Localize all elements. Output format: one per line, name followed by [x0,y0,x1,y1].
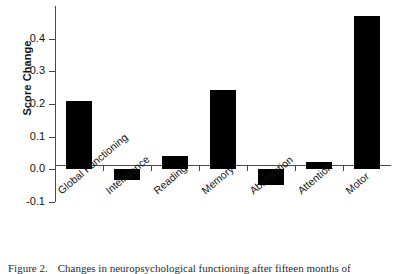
x-tick [295,166,296,171]
x-tick [199,166,200,171]
x-tick [151,166,152,171]
bar-chart-figure: Score Change -0.10.00.10.20.30.4 Global … [0,0,403,274]
y-tick: 0.2 [49,104,55,105]
x-tick [343,166,344,171]
x-tick [247,166,248,171]
y-tick-label: 0.0 [30,162,45,175]
y-tick-label: 0.3 [30,64,45,77]
x-axis-label: Intelligence [103,153,151,196]
bar [354,16,381,170]
y-tick: 0.3 [49,71,55,72]
y-tick: 0.0 [49,169,55,170]
y-axis-line [55,6,56,202]
y-tick-label: -0.1 [26,195,45,208]
y-tick-label: 0.4 [30,32,45,45]
y-tick: -0.1 [49,202,55,203]
figure-caption: Figure 2.Changes in neuropsychological f… [8,262,400,274]
y-tick-label: 0.1 [30,130,45,143]
x-axis-label: Abstraction [247,154,295,197]
bar [210,90,237,169]
y-tick-label: 0.2 [30,97,45,110]
caption-text: Changes in neuropsychological functionin… [58,262,351,274]
x-tick [103,166,104,171]
y-tick: 0.4 [49,39,55,40]
plot-area: -0.10.00.10.20.30.4 Global FunctioningIn… [55,6,391,206]
x-axis-label: Motor [343,170,371,196]
caption-label: Figure 2. [8,262,48,274]
y-tick: 0.1 [49,137,55,138]
